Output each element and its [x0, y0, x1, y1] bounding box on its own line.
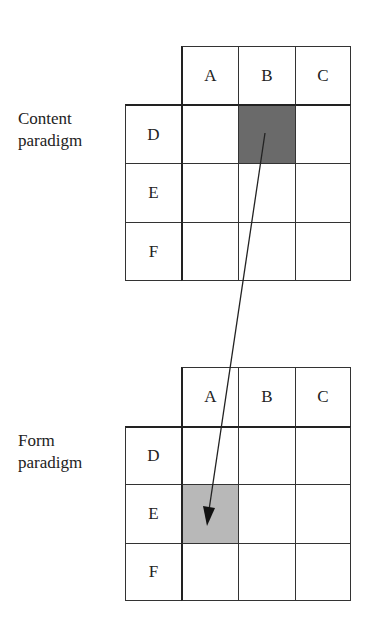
content-paradigm-label: Content paradigm	[18, 108, 82, 152]
cell-f-b	[238, 543, 296, 601]
label-line: paradigm	[18, 130, 82, 152]
column-header-a: A	[181, 46, 239, 105]
cell-e-c	[295, 484, 351, 544]
cell-d-c	[295, 426, 351, 485]
cell-d-b	[238, 426, 296, 485]
cell-f-b	[238, 222, 296, 281]
label-line: paradigm	[18, 452, 82, 474]
cell-e-b	[238, 163, 296, 223]
row-header-d: D	[125, 104, 182, 164]
cell-d-a	[181, 104, 239, 164]
column-header-c: C	[295, 367, 351, 427]
cell-d-c	[295, 104, 351, 164]
row-header-e: E	[125, 163, 182, 223]
form-paradigm-grid: A B C D E F	[125, 367, 351, 601]
cell-e-a-highlighted	[181, 484, 239, 544]
cell-f-a	[181, 543, 239, 601]
row-header-e: E	[125, 484, 182, 544]
cell-d-b-highlighted	[238, 104, 296, 164]
cell-f-c	[295, 543, 351, 601]
row-header-d: D	[125, 426, 182, 485]
column-header-b: B	[238, 367, 296, 427]
label-line: Form	[18, 430, 82, 452]
label-line: Content	[18, 108, 82, 130]
form-paradigm-label: Form paradigm	[18, 430, 82, 474]
column-header-c: C	[295, 46, 351, 105]
column-header-a: A	[181, 367, 239, 427]
cell-d-a	[181, 426, 239, 485]
row-header-f: F	[125, 543, 182, 601]
content-paradigm-grid: A B C D E F	[125, 46, 351, 281]
cell-e-b	[238, 484, 296, 544]
cell-f-c	[295, 222, 351, 281]
cell-e-a	[181, 163, 239, 223]
column-header-b: B	[238, 46, 296, 105]
row-header-f: F	[125, 222, 182, 281]
cell-e-c	[295, 163, 351, 223]
cell-f-a	[181, 222, 239, 281]
